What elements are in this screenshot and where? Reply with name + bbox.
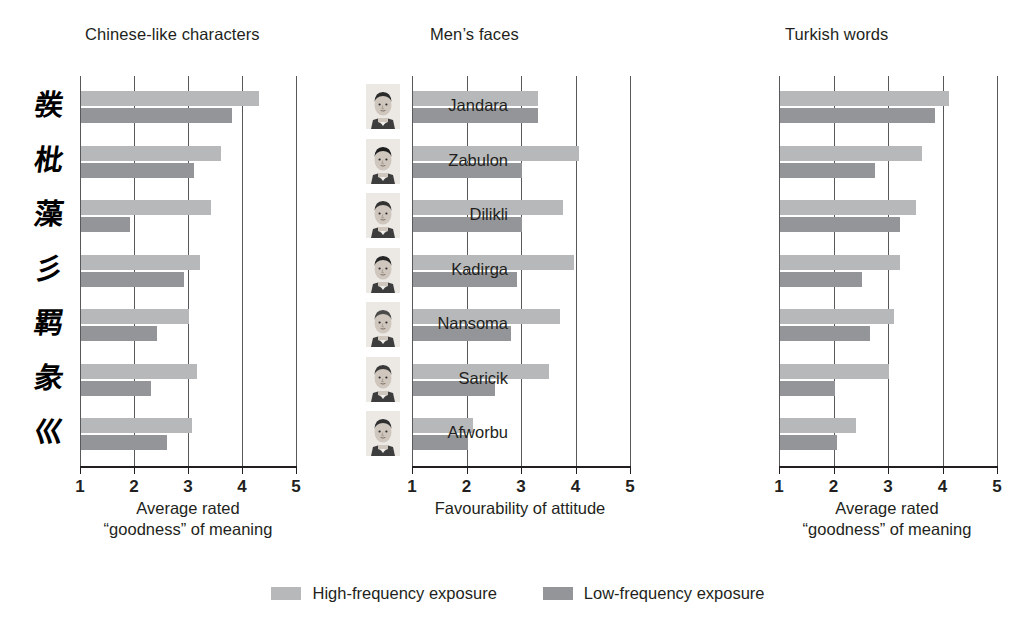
bar-high-frequency: [780, 364, 889, 379]
bar-low-frequency: [780, 272, 862, 287]
legend-label-low-frequency: Low-frequency exposure: [584, 584, 765, 603]
mere-exposure-bar-chart-figure: Chinese-like characters12345Average rate…: [0, 0, 1036, 617]
bar-low-frequency: [780, 326, 870, 341]
legend-label-high-frequency: High-frequency exposure: [312, 584, 496, 603]
x-tick-label: 1: [769, 477, 789, 497]
x-tick-label: 3: [878, 477, 898, 497]
category-label: Kadirga: [0, 260, 772, 279]
bar-high-frequency: [780, 200, 916, 215]
low-frequency-swatch: [543, 587, 573, 600]
bar-low-frequency: [780, 163, 875, 178]
category-label: Saricik: [0, 369, 772, 388]
x-axis-caption: Average rated“goodness” of meaning: [717, 498, 1036, 539]
category-label: Zabulon: [0, 151, 772, 170]
bar-low-frequency: [780, 108, 935, 123]
x-axis-caption-line1: Average rated: [717, 498, 1036, 519]
chart-legend: High-frequency exposure Low-frequency ex…: [0, 584, 1036, 603]
bar-high-frequency: [780, 146, 922, 161]
gridline: [888, 76, 889, 466]
bar-high-frequency: [780, 418, 856, 433]
category-label: Nansoma: [0, 314, 772, 333]
legend-item-low-frequency: Low-frequency exposure: [543, 584, 765, 603]
category-label: Dilikli: [0, 205, 772, 224]
chart-panel-3: Turkish words12345Average rated“goodness…: [0, 0, 1036, 617]
gridline: [997, 76, 998, 466]
legend-item-high-frequency: High-frequency exposure: [271, 584, 496, 603]
bar-high-frequency: [780, 91, 949, 106]
bar-high-frequency: [780, 255, 900, 270]
x-axis-line: [779, 466, 998, 468]
bar-high-frequency: [780, 309, 894, 324]
category-label: Jandara: [0, 96, 772, 115]
x-tick-label: 5: [987, 477, 1007, 497]
bar-low-frequency: [780, 381, 835, 396]
gridline: [943, 76, 944, 466]
x-tick-label: 2: [824, 477, 844, 497]
high-frequency-swatch: [271, 587, 301, 600]
panel-title: Turkish words: [785, 25, 888, 44]
x-axis-caption-line2: “goodness” of meaning: [717, 519, 1036, 540]
category-label: Afworbu: [0, 423, 772, 442]
bar-low-frequency: [780, 217, 900, 232]
x-tick-label: 4: [933, 477, 953, 497]
bar-low-frequency: [780, 435, 837, 450]
